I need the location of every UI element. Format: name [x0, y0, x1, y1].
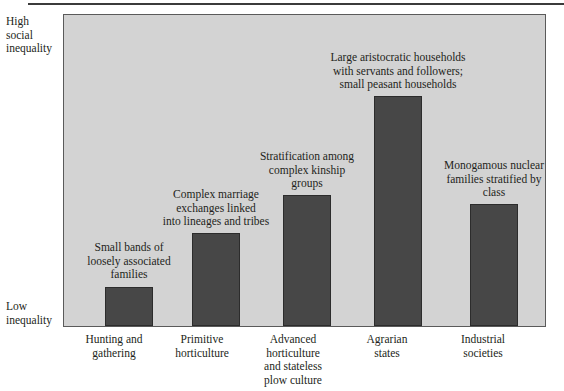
bar-5[interactable]: [470, 204, 518, 326]
bar-1[interactable]: [105, 287, 153, 326]
bar-4[interactable]: [374, 96, 422, 326]
y-axis-high-label: High social inequality: [6, 15, 62, 56]
social-inequality-bar-chart: High social inequality Low inequality Sm…: [0, 0, 564, 391]
bar-2[interactable]: [192, 233, 240, 326]
top-horizontal-rule: [28, 3, 564, 5]
plot-panel: Small bands of loosely associated famili…: [63, 14, 546, 327]
bar-annotation-3: Stratification among complex kinship gro…: [236, 150, 378, 191]
bar-annotation-2: Complex marriage exchanges linked into l…: [142, 188, 290, 229]
bar-annotation-4: Large aristocratic households with serva…: [290, 51, 506, 92]
y-axis-low-label: Low inequality: [6, 300, 66, 327]
bar-3[interactable]: [283, 195, 331, 326]
bar-annotation-1: Small bands of loosely associated famili…: [59, 241, 199, 282]
bar-annotation-5: Monogamous nuclear families stratified b…: [418, 159, 564, 200]
category-label-5: Industrial societies: [428, 333, 538, 360]
category-label-4: Agrarian states: [332, 333, 442, 360]
